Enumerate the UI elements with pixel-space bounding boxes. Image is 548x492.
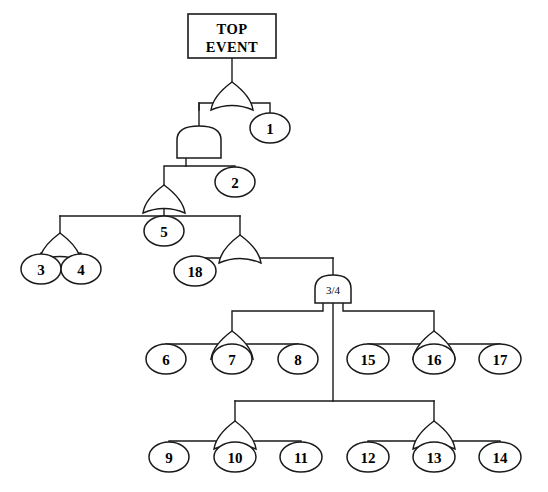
event-label: 12 bbox=[361, 450, 376, 466]
or-gate-icon bbox=[143, 185, 185, 213]
gate-g4-or[interactable] bbox=[219, 235, 261, 263]
event-label: 15 bbox=[361, 352, 376, 368]
event-label: 9 bbox=[165, 450, 173, 466]
event-label: 6 bbox=[162, 352, 170, 368]
event-label: 18 bbox=[188, 264, 203, 280]
wire-g5-left-leg bbox=[232, 303, 323, 331]
or-gate-icon bbox=[211, 82, 253, 110]
fault-tree-diagram: TOP EVENT 3/4 1 bbox=[0, 0, 548, 492]
event-label: 11 bbox=[294, 450, 308, 466]
event-label: 17 bbox=[493, 352, 509, 368]
top-event-line2: EVENT bbox=[206, 39, 258, 55]
event-label: 1 bbox=[266, 121, 274, 137]
wire-g5-right-leg bbox=[343, 303, 434, 331]
wire-g1-to-g2 bbox=[164, 166, 186, 185]
top-event-line1: TOP bbox=[216, 21, 247, 37]
voting-gate-label: 3/4 bbox=[326, 284, 341, 296]
basic-event-8[interactable]: 8 bbox=[278, 344, 318, 374]
basic-event-11[interactable]: 11 bbox=[280, 442, 322, 472]
basic-event-12[interactable]: 12 bbox=[347, 442, 389, 472]
event-label: 2 bbox=[231, 175, 239, 191]
event-label: 5 bbox=[160, 224, 168, 240]
wire-g1-bottom-bar bbox=[186, 158, 235, 167]
event-label: 14 bbox=[493, 450, 509, 466]
event-label: 7 bbox=[228, 352, 236, 368]
gate-g5-vote[interactable]: 3/4 bbox=[315, 275, 351, 303]
event-label: 10 bbox=[228, 450, 243, 466]
event-label: 3 bbox=[37, 262, 45, 278]
basic-event-14[interactable]: 14 bbox=[479, 442, 521, 472]
event-label: 13 bbox=[427, 450, 442, 466]
gate-g2-or[interactable] bbox=[143, 185, 185, 213]
basic-event-18[interactable]: 18 bbox=[174, 256, 216, 286]
basic-event-16[interactable]: 16 bbox=[413, 344, 455, 374]
basic-event-3[interactable]: 3 bbox=[21, 254, 61, 284]
basic-event-4[interactable]: 4 bbox=[61, 254, 101, 284]
gate-g0-or[interactable] bbox=[211, 82, 253, 110]
basic-event-15[interactable]: 15 bbox=[347, 344, 389, 374]
gate-g1-and[interactable] bbox=[177, 126, 221, 158]
basic-event-7[interactable]: 7 bbox=[212, 344, 252, 374]
basic-event-10[interactable]: 10 bbox=[214, 442, 256, 472]
basic-event-1[interactable]: 1 bbox=[250, 113, 290, 143]
and-gate-icon bbox=[177, 126, 221, 158]
basic-event-13[interactable]: 13 bbox=[413, 442, 455, 472]
basic-event-6[interactable]: 6 bbox=[146, 344, 186, 374]
basic-event-17[interactable]: 17 bbox=[479, 344, 521, 374]
event-label: 8 bbox=[294, 352, 302, 368]
event-label: 16 bbox=[427, 352, 443, 368]
or-gate-icon bbox=[219, 235, 261, 263]
basic-event-9[interactable]: 9 bbox=[149, 442, 189, 472]
basic-event-2[interactable]: 2 bbox=[215, 167, 255, 197]
top-event-node[interactable]: TOP EVENT bbox=[188, 14, 276, 58]
basic-event-5[interactable]: 5 bbox=[144, 216, 184, 246]
event-label: 4 bbox=[77, 262, 85, 278]
